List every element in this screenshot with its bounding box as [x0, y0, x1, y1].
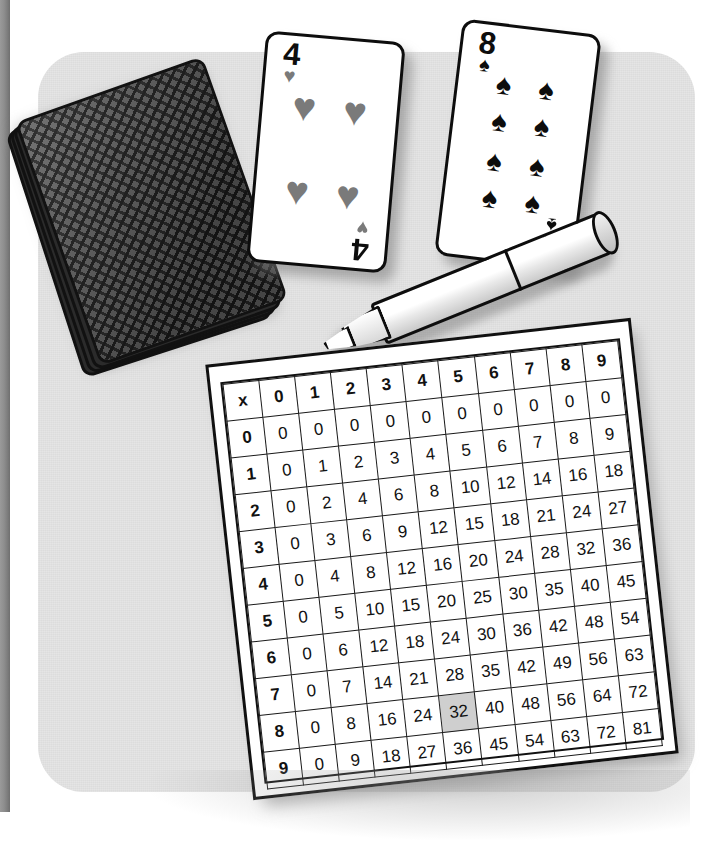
table-cell[interactable]: 12 [387, 549, 427, 590]
multiplication-table[interactable]: x012345678900000000000101234567892024681… [222, 340, 662, 789]
table-cell[interactable]: 72 [586, 713, 626, 754]
table-cell[interactable]: 81 [622, 709, 662, 750]
table-cell[interactable]: 54 [515, 721, 555, 762]
table-cell[interactable]: 4 [343, 479, 383, 520]
table-cell[interactable]: 28 [530, 533, 570, 574]
table-cell[interactable]: 0 [263, 413, 303, 454]
table-cell[interactable]: 0 [287, 634, 327, 675]
table-cell[interactable]: 8 [415, 471, 455, 512]
table-cell[interactable]: 0 [283, 597, 323, 638]
table-cell[interactable]: 16 [558, 455, 598, 496]
table-cell[interactable]: 14 [522, 459, 562, 500]
table-cell[interactable]: 32 [566, 529, 606, 570]
table-cell[interactable]: 24 [403, 696, 443, 737]
table-cell[interactable]: 36 [443, 728, 483, 769]
table-cell[interactable]: 40 [475, 688, 515, 729]
table-cell[interactable]: 16 [367, 700, 407, 741]
table-cell[interactable]: 12 [359, 626, 399, 667]
table-cell[interactable]: 0 [279, 560, 319, 601]
table-cell[interactable]: 42 [538, 606, 578, 647]
table-cell[interactable]: 4 [410, 434, 450, 475]
table-cell[interactable]: 35 [534, 570, 574, 611]
table-cell[interactable]: 64 [582, 676, 622, 717]
table-cell[interactable]: 8 [554, 418, 594, 459]
card-four-of-hearts[interactable]: 4 ♥ 4 ♥ ♥♥♥♥ [246, 30, 406, 273]
table-cell[interactable]: 12 [419, 508, 459, 549]
table-cell[interactable]: 18 [594, 451, 634, 492]
table-cell[interactable]: 35 [471, 651, 511, 692]
table-cell[interactable]: 8 [331, 704, 371, 745]
table-cell[interactable]: 0 [586, 378, 626, 419]
table-cell[interactable]: 10 [450, 467, 490, 508]
table-cell[interactable]: 30 [498, 573, 538, 614]
card-deck[interactable] [30, 60, 280, 370]
table-cell[interactable]: 0 [267, 450, 307, 491]
table-cell[interactable]: 24 [431, 618, 471, 659]
table-cell[interactable]: 20 [427, 581, 467, 622]
table-cell[interactable]: 9 [383, 512, 423, 553]
table-cell[interactable]: 21 [526, 496, 566, 537]
table-cell[interactable]: 9 [590, 414, 630, 455]
table-cell[interactable]: 0 [550, 382, 590, 423]
table-cell[interactable]: 0 [442, 394, 482, 435]
table-cell[interactable]: 1 [303, 446, 343, 487]
table-cell[interactable]: 42 [507, 647, 547, 688]
table-cell[interactable]: 0 [271, 487, 311, 528]
table-cell[interactable]: 36 [602, 525, 642, 566]
table-cell[interactable]: 8 [351, 553, 391, 594]
table-cell[interactable]: 3 [375, 438, 415, 479]
table-cell[interactable]: 40 [570, 566, 610, 607]
table-cell[interactable]: 0 [478, 390, 518, 431]
table-cell[interactable]: 27 [598, 488, 638, 529]
table-cell[interactable]: 63 [614, 635, 654, 676]
table-cell[interactable]: 4 [315, 556, 355, 597]
table-cell[interactable]: 45 [479, 725, 519, 766]
table-cell[interactable]: 21 [399, 659, 439, 700]
table-cell[interactable]: 15 [391, 585, 431, 626]
table-cell[interactable]: 2 [339, 442, 379, 483]
table-cell[interactable]: 49 [542, 643, 582, 684]
table-cell[interactable]: 63 [551, 717, 591, 758]
table-cell[interactable]: 7 [518, 422, 558, 463]
table-cell[interactable]: 28 [435, 655, 475, 696]
table-cell[interactable]: 5 [446, 430, 486, 471]
table-cell[interactable]: 0 [291, 671, 331, 712]
table-cell[interactable]: 20 [458, 541, 498, 582]
table-cell[interactable]: 36 [502, 610, 542, 651]
table-cell[interactable]: 12 [486, 463, 526, 504]
table-cell[interactable]: 0 [371, 401, 411, 442]
table-cell[interactable]: 7 [327, 667, 367, 708]
table-cell[interactable]: 2 [307, 483, 347, 524]
table-cell[interactable]: 3 [311, 520, 351, 561]
table-cell[interactable]: 56 [546, 680, 586, 721]
table-cell[interactable]: 54 [610, 598, 650, 639]
table-cell[interactable]: 56 [578, 639, 618, 680]
table-cell[interactable]: 0 [275, 524, 315, 565]
table-cell[interactable]: 48 [574, 602, 614, 643]
table-cell[interactable]: 72 [618, 672, 658, 713]
table-cell[interactable]: 0 [335, 405, 375, 446]
table-cell[interactable]: 18 [490, 500, 530, 541]
table-cell[interactable]: 6 [482, 426, 522, 467]
table-cell[interactable]: 16 [423, 545, 463, 586]
table-cell[interactable]: 0 [295, 708, 335, 749]
table-cell[interactable]: 45 [606, 562, 646, 603]
table-cell[interactable]: 6 [379, 475, 419, 516]
worksheet-paper[interactable]: x012345678900000000000101234567892024681… [205, 318, 678, 800]
table-cell[interactable]: 6 [323, 630, 363, 671]
table-cell[interactable]: 48 [511, 684, 551, 725]
table-cell[interactable]: 6 [347, 516, 387, 557]
table-cell[interactable]: 10 [355, 589, 395, 630]
table-cell[interactable]: 24 [562, 492, 602, 533]
table-cell[interactable]: 0 [514, 386, 554, 427]
table-cell[interactable]: 18 [395, 622, 435, 663]
table-cell[interactable]: 24 [494, 537, 534, 578]
table-cell[interactable]: 25 [463, 577, 503, 618]
table-cell[interactable]: 14 [363, 663, 403, 704]
table-cell[interactable]: 30 [467, 614, 507, 655]
table-cell[interactable]: 0 [406, 397, 446, 438]
table-cell[interactable]: 0 [299, 409, 339, 450]
table-cell[interactable]: 27 [407, 732, 447, 773]
table-cell[interactable]: 15 [454, 504, 494, 545]
highlighted-cell[interactable]: 32 [439, 692, 479, 733]
